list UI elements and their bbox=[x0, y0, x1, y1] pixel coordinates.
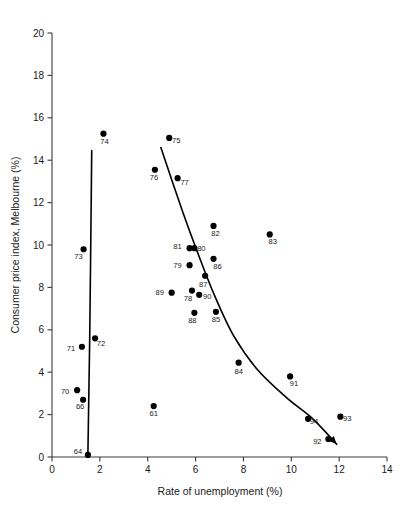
point-label: 89 bbox=[155, 288, 163, 297]
data-point bbox=[74, 387, 80, 393]
x-tick-label: 4 bbox=[145, 464, 151, 475]
point-label: 74 bbox=[100, 137, 108, 146]
point-label: 90 bbox=[203, 292, 211, 301]
data-point bbox=[202, 273, 208, 279]
y-tick-label: 12 bbox=[33, 197, 45, 208]
x-tick-label: 8 bbox=[241, 464, 247, 475]
point-label: 82 bbox=[211, 229, 219, 238]
point-label: 84 bbox=[234, 367, 242, 376]
y-tick-label: 20 bbox=[33, 28, 45, 39]
y-axis-title: Consumer price index, Melbourne (%) bbox=[9, 157, 21, 334]
point-label: 94 bbox=[310, 417, 318, 426]
trend-curves bbox=[88, 147, 337, 454]
point-label: 70 bbox=[61, 387, 69, 396]
point-label: 93 bbox=[343, 414, 351, 423]
x-tick-label: 6 bbox=[193, 464, 199, 475]
y-tick-label: 10 bbox=[33, 240, 45, 251]
point-label: 66 bbox=[76, 402, 84, 411]
curve-vertical-trend-line bbox=[88, 151, 92, 455]
y-tick-label: 6 bbox=[38, 324, 44, 335]
x-tick-label: 14 bbox=[381, 464, 393, 475]
point-label: 86 bbox=[213, 262, 221, 271]
y-tick-label: 0 bbox=[38, 452, 44, 463]
data-point bbox=[236, 360, 242, 366]
data-point bbox=[325, 436, 331, 442]
data-point bbox=[196, 292, 202, 298]
point-label: 75 bbox=[172, 136, 180, 145]
y-tick-label: 16 bbox=[33, 112, 45, 123]
point-label: 88 bbox=[188, 316, 196, 325]
point-label: 80 bbox=[197, 244, 205, 253]
point-label: 77 bbox=[180, 178, 188, 187]
point-label: 92 bbox=[313, 437, 321, 446]
point-label: 83 bbox=[269, 237, 277, 246]
y-tick-label: 4 bbox=[38, 367, 44, 378]
data-point bbox=[79, 344, 85, 350]
plot-area: 0246810121402468101214161820 64667071727… bbox=[0, 0, 405, 516]
point-label: 91 bbox=[290, 379, 298, 388]
x-tick-label: 10 bbox=[286, 464, 298, 475]
point-label: 61 bbox=[149, 409, 157, 418]
point-label: 76 bbox=[150, 173, 158, 182]
x-tick-label: 12 bbox=[334, 464, 346, 475]
data-points: 6466707172737461767577897981807888908786… bbox=[61, 131, 352, 458]
point-label: 81 bbox=[173, 242, 181, 251]
x-tick-label: 2 bbox=[97, 464, 103, 475]
x-axis-title: Rate of unemployment (%) bbox=[158, 485, 283, 497]
y-tick-label: 2 bbox=[38, 409, 44, 420]
x-tick-label: 0 bbox=[49, 464, 55, 475]
data-point bbox=[85, 452, 91, 458]
data-point bbox=[186, 262, 192, 268]
point-label: 87 bbox=[199, 280, 207, 289]
point-label: 79 bbox=[173, 261, 181, 270]
point-label: 85 bbox=[212, 315, 220, 324]
point-label: 64 bbox=[74, 447, 82, 456]
y-tick-label: 8 bbox=[38, 282, 44, 293]
point-label: 72 bbox=[97, 339, 105, 348]
y-tick-label: 18 bbox=[33, 70, 45, 81]
axes: 0246810121402468101214161820 bbox=[33, 28, 393, 475]
point-label: 71 bbox=[67, 344, 75, 353]
data-point bbox=[169, 290, 175, 296]
point-label: 73 bbox=[74, 252, 82, 261]
scatter-chart: 0246810121402468101214161820 64667071727… bbox=[0, 0, 405, 516]
point-label: 78 bbox=[184, 294, 192, 303]
y-tick-label: 14 bbox=[33, 155, 45, 166]
